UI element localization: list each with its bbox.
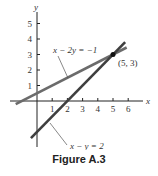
intersection-point-label: (5, 3) <box>118 58 138 68</box>
intersection-point-marker <box>111 52 116 57</box>
leader-line-2 <box>50 123 67 145</box>
x-tick-label: 2 <box>65 104 70 114</box>
leader-line-1 <box>58 56 68 78</box>
y-tick-label: 1 <box>28 81 33 91</box>
x-tick-label: 6 <box>126 104 131 114</box>
x-tick-label: 4 <box>96 104 101 114</box>
x-tick-label: 5 <box>111 104 116 114</box>
series-label-1: x − 2y = −1 <box>52 45 97 55</box>
figure-caption: Figure A.3 <box>0 153 158 165</box>
y-tick-label: 5 <box>28 19 33 29</box>
x-tick-label: 1 <box>50 104 55 114</box>
y-tick-label: 2 <box>28 65 33 75</box>
x-tick-label: 3 <box>80 104 85 114</box>
x-axis-label: x <box>145 96 150 106</box>
y-tick-label: 3 <box>28 50 33 60</box>
y-tick-label: 4 <box>28 34 33 44</box>
y-axis-label: y <box>33 2 38 12</box>
series-label-2: x − y = 2 <box>69 141 104 150</box>
chart-plot: xy12345612345x − 2y = −1x − y = 2(5, 3) <box>0 0 158 150</box>
